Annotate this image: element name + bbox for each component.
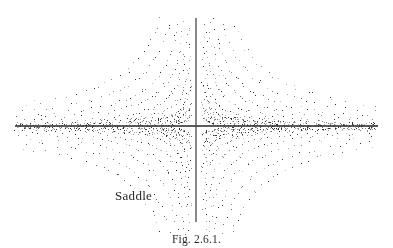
saddle-label: Saddle [115, 188, 152, 204]
figure-caption: Fig. 2.6.1. [0, 233, 393, 245]
saddle-phase-portrait-canvas [0, 0, 393, 248]
figure-container: Saddle Fig. 2.6.1. [0, 0, 393, 248]
